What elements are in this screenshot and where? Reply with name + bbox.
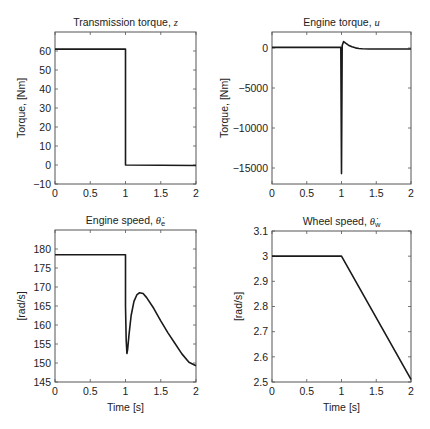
y-tick-label: 2.8	[253, 300, 268, 312]
x-tick-label: 1	[339, 385, 345, 397]
y-tick-label: 30	[39, 102, 51, 114]
y-tick-label: 2.9	[253, 275, 268, 287]
chart-title: Engine torque, u	[303, 16, 379, 28]
y-tick-label: 160	[33, 319, 51, 331]
y-tick-label: 2.5	[253, 376, 268, 388]
subplot-wheel-speed: 00.511.522.52.62.72.82.933.1Wheel speed,…	[232, 215, 414, 413]
y-tick-label: 3.1	[253, 225, 268, 237]
y-tick-label: 2.6	[253, 351, 268, 363]
y-axis-label: [rad/s]	[232, 292, 244, 321]
y-tick-label: 10	[39, 140, 51, 152]
x-tick-label: 0	[269, 187, 275, 199]
x-tick-label: 1.5	[153, 385, 168, 397]
subplot-transmission-torque: 00.511.52−100102030405060Transmission to…	[15, 16, 199, 199]
y-tick-label: 20	[39, 121, 51, 133]
y-tick-label: 180	[33, 243, 51, 255]
x-tick-label: 0.5	[83, 385, 98, 397]
x-axis-label: Time [s]	[107, 401, 144, 413]
y-axis-label: Torque, [Nm]	[218, 78, 230, 138]
x-tick-label: 2	[408, 385, 414, 397]
x-tick-label: 2	[193, 187, 199, 199]
y-tick-label: −10	[33, 178, 51, 190]
x-axis-label: Time [s]	[323, 401, 360, 413]
y-tick-label: −15000	[233, 162, 268, 174]
figure: 00.511.52−100102030405060Transmission to…	[0, 0, 430, 429]
x-tick-label: 0.5	[299, 385, 314, 397]
x-tick-label: 1.5	[369, 385, 384, 397]
x-tick-label: 1.5	[153, 187, 168, 199]
y-tick-label: 145	[33, 376, 51, 388]
chart-title: Engine speed, θ̇e	[86, 214, 165, 228]
y-tick-label: 2.7	[253, 325, 268, 337]
y-tick-label: −10000	[233, 122, 268, 134]
series-line-theta_e_dot	[55, 255, 196, 366]
subplot-engine-speed: 00.511.52145150155160165170175180Engine …	[15, 214, 199, 413]
y-tick-label: 150	[33, 357, 51, 369]
x-tick-label: 1	[123, 385, 129, 397]
x-tick-label: 1	[123, 187, 129, 199]
x-tick-label: 0	[52, 187, 58, 199]
x-tick-label: 1	[339, 187, 345, 199]
y-axis-label: [rad/s]	[15, 291, 27, 320]
x-tick-label: 0.5	[299, 187, 314, 199]
series-line-u	[272, 42, 411, 174]
y-tick-label: −5000	[239, 82, 269, 94]
x-tick-label: 2	[193, 385, 199, 397]
y-tick-label: 0	[262, 42, 268, 54]
x-tick-label: 2	[408, 187, 414, 199]
y-tick-label: 165	[33, 300, 51, 312]
series-line-theta_w_dot	[272, 256, 411, 379]
series-line-z	[55, 49, 196, 165]
y-tick-label: 50	[39, 64, 51, 76]
axes-box	[272, 231, 411, 382]
x-tick-label: 1.5	[369, 187, 384, 199]
y-tick-label: 170	[33, 281, 51, 293]
chart-title: Transmission torque, z	[73, 16, 178, 28]
subplot-engine-torque: 00.511.52−15000−10000−50000Engine torque…	[218, 16, 414, 199]
y-tick-label: 155	[33, 338, 51, 350]
y-tick-label: 0	[45, 159, 51, 171]
x-tick-label: 0	[52, 385, 58, 397]
y-tick-label: 175	[33, 262, 51, 274]
y-axis-label: Torque, [Nm]	[15, 78, 27, 138]
chart-title: Wheel speed, θ̇w	[303, 215, 381, 229]
y-tick-label: 3	[262, 250, 268, 262]
x-tick-label: 0	[269, 385, 275, 397]
y-tick-label: 60	[39, 45, 51, 57]
x-tick-label: 0.5	[83, 187, 98, 199]
y-tick-label: 40	[39, 83, 51, 95]
